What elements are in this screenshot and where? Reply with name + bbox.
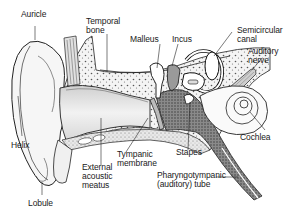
cartilage-shading — [64, 36, 80, 86]
label-lobule: Lobule — [28, 199, 53, 208]
label-malleus: Malleus — [130, 35, 159, 44]
label-temporal-bone: Temporal bone — [86, 17, 120, 35]
label-semicircular-canal: Semicircular canal — [237, 26, 283, 44]
label-auditory-nerve: Auditory nerve — [248, 47, 278, 65]
label-auricle: Auricle — [21, 10, 46, 19]
label-stapes: Stapes — [176, 148, 202, 157]
label-external-acoustic-meatus: External acoustic meatus — [82, 163, 112, 190]
label-cochlea: Cochlea — [240, 133, 271, 142]
label-tympanic-membrane: Tympanic membrane — [117, 150, 157, 168]
label-pharyngotympanic-tube: Pharyngotympanic (auditory) tube — [157, 171, 226, 189]
label-helix: Helix — [11, 141, 29, 150]
label-incus: Incus — [172, 35, 192, 44]
